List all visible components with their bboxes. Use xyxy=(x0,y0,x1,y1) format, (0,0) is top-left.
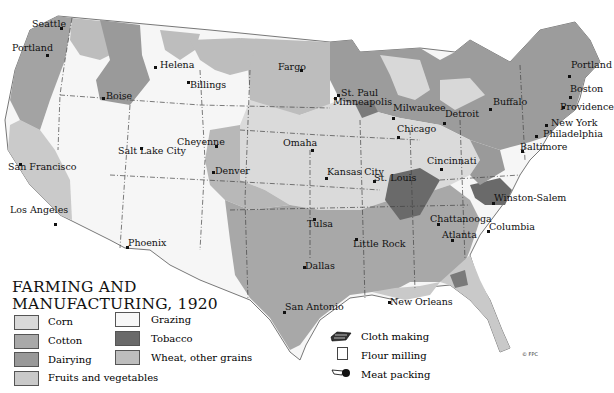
city-label: Dallas xyxy=(305,261,335,271)
city-label: San Antonio xyxy=(285,302,344,312)
city-dot xyxy=(102,97,105,100)
legend-label-meat: Meat packing xyxy=(361,369,430,380)
legend-swatch-corn xyxy=(14,315,39,330)
legend-swatch-wheat xyxy=(115,350,140,365)
legend-label-wheat: Wheat, other grains xyxy=(151,352,252,363)
city-label: Minneapolis xyxy=(333,97,392,107)
cloth-icon xyxy=(329,331,353,342)
legend-label-fruits: Fruits and vegetables xyxy=(48,372,158,383)
city-label: Little Rock xyxy=(353,239,406,249)
city-dot xyxy=(569,96,572,99)
city-dot xyxy=(334,97,337,100)
city-dot xyxy=(300,69,303,72)
city-dot xyxy=(568,75,571,78)
city-label: Detroit xyxy=(445,109,479,119)
city-dot xyxy=(19,163,22,166)
city-dot xyxy=(154,66,157,69)
city-dot xyxy=(373,180,376,183)
legend-label-grazing: Grazing xyxy=(151,314,191,325)
city-label: Philadelphia xyxy=(543,129,603,139)
city-dot xyxy=(521,150,524,153)
city-label: Portland xyxy=(12,43,53,53)
legend-swatch-grazing xyxy=(115,312,140,327)
city-label: Columbia xyxy=(489,222,535,232)
city-label: Phoenix xyxy=(128,238,166,248)
city-dot xyxy=(212,171,215,174)
city-label: Chicago xyxy=(397,124,436,134)
city-dot xyxy=(60,27,63,30)
map-title-line2: MANUFACTURING, 1920 xyxy=(12,296,218,313)
city-label: Buffalo xyxy=(493,97,527,107)
city-dot xyxy=(283,311,286,314)
copyright: © FPC xyxy=(522,351,538,357)
legend-label-flour: Flour milling xyxy=(361,350,427,361)
city-label: Cincinnati xyxy=(427,156,477,166)
city-dot xyxy=(311,149,314,152)
city-dot xyxy=(489,108,492,111)
city-label: Milwaukee xyxy=(393,103,446,113)
city-dot xyxy=(355,238,358,241)
city-dot xyxy=(440,168,443,171)
flour-icon xyxy=(337,347,348,360)
legend-swatch-fruits xyxy=(14,371,39,386)
legend-swatch-dairying xyxy=(14,352,39,367)
city-label: Helena xyxy=(160,60,194,70)
city-dot xyxy=(397,136,400,139)
city-label: New Orleans xyxy=(390,297,453,307)
city-label: Boise xyxy=(106,91,132,101)
city-label: Omaha xyxy=(283,138,317,148)
city-label: Boston xyxy=(570,84,603,94)
city-dot xyxy=(215,145,218,148)
legend-label-cloth: Cloth making xyxy=(361,331,429,342)
city-label: St. Louis xyxy=(374,173,416,183)
city-label: Atlanta xyxy=(442,230,477,240)
city-dot xyxy=(443,122,446,125)
city-dot xyxy=(140,147,143,150)
legend-label-cotton: Cotton xyxy=(48,335,82,346)
city-label: Los Angeles xyxy=(10,205,68,215)
city-dot xyxy=(392,117,395,120)
city-dot xyxy=(54,223,57,226)
city-dot xyxy=(126,246,129,249)
map-title-line1: FARMING AND xyxy=(12,279,218,296)
city-dot xyxy=(325,177,328,180)
city-dot xyxy=(562,106,565,109)
city-dot xyxy=(187,81,190,84)
city-dot xyxy=(535,135,538,138)
city-label: Portland xyxy=(571,60,612,70)
legend-swatch-cotton xyxy=(14,334,39,349)
city-dot xyxy=(487,230,490,233)
meat-icon xyxy=(331,367,353,379)
legend-label-corn: Corn xyxy=(48,316,73,327)
city-label: Winston-Salem xyxy=(494,193,566,203)
city-dot xyxy=(46,54,49,57)
legend-label-tobacco: Tobacco xyxy=(151,333,193,344)
city-label: Denver xyxy=(215,166,250,176)
city-label: Tulsa xyxy=(307,219,333,229)
city-label: Baltimore xyxy=(520,142,567,152)
city-dot xyxy=(437,223,440,226)
legend-label-dairying: Dairying xyxy=(48,354,92,365)
city-dot xyxy=(545,124,548,127)
city-label: New York xyxy=(551,118,598,128)
legend-swatch-tobacco xyxy=(115,331,140,346)
city-dot xyxy=(451,239,454,242)
city-dot xyxy=(492,202,495,205)
city-label: Billings xyxy=(190,80,226,90)
city-dot xyxy=(313,218,316,221)
city-dot xyxy=(303,266,306,269)
city-label: Providence xyxy=(560,102,614,112)
city-dot xyxy=(388,301,391,304)
city-label: Salt Lake City xyxy=(118,146,186,156)
map-title: FARMING AND MANUFACTURING, 1920 xyxy=(12,279,218,313)
